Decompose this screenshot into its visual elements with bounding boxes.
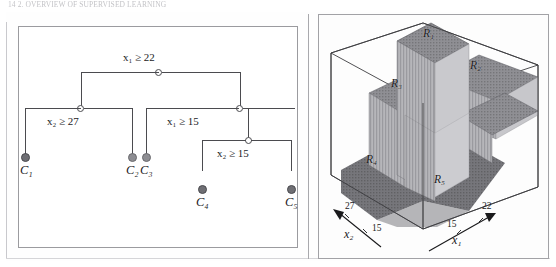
region-label-r4: R₄ (366, 153, 377, 165)
edge-left-to-c1 (25, 108, 81, 109)
axis-x1-arrowhead (485, 213, 496, 222)
axis-x1-ticks (457, 218, 483, 234)
edge-root-right-drop (240, 72, 241, 108)
tree-leaf-c1[interactable] (21, 153, 30, 162)
split-label-left: x₂ ≥ 27 (47, 115, 79, 127)
edge-root-left (81, 72, 159, 73)
edge-c5-drop (291, 140, 292, 171)
partition-plot-panel: R₁ R₂ R₃ R₄ R₅ x₂ x₁ 27 15 15 22 (318, 14, 549, 259)
tree-leaf-c5[interactable] (287, 185, 296, 194)
figure-container: x₁ ≥ 22 x₂ ≥ 27 x₁ ≥ 15 (6, 12, 550, 261)
decision-tree-panel: x₁ ≥ 22 x₂ ≥ 27 x₁ ≥ 15 (18, 26, 298, 248)
edge-sub-to-c5 (251, 140, 291, 141)
leaf-label-c3: C₃ (140, 163, 153, 178)
leaf-label-c2: C₂ (126, 163, 139, 178)
axis-x1-tick-22: 22 (482, 201, 492, 211)
edge-right-to-sub (243, 108, 295, 109)
leaf-label-c5: C₅ (285, 195, 298, 210)
split-label-right-right: x₂ ≥ 15 (217, 147, 249, 159)
left-rule (6, 22, 7, 258)
edge-left-to-c2 (84, 108, 132, 109)
edge-root-left-drop (81, 72, 82, 108)
region-label-r5: R₅ (434, 173, 445, 185)
tree-leaf-c4[interactable] (198, 185, 207, 194)
leaf-label-c1: C₁ (20, 163, 33, 178)
axis-x2-arrowhead (333, 209, 344, 220)
leaf-label-c4: C₄ (196, 195, 209, 210)
tree-leaf-c3[interactable] (142, 153, 151, 162)
edge-right-to-c3 (146, 108, 239, 109)
region-label-r2: R₂ (470, 59, 481, 71)
axis-x1-tick-15: 15 (447, 219, 457, 229)
split-label-right: x₁ ≥ 15 (167, 115, 199, 127)
edge-c4-drop (202, 140, 203, 171)
edge-c2-drop (132, 108, 133, 155)
region-label-r3: R₃ (391, 77, 402, 89)
region-label-r1: R₁ (423, 27, 434, 39)
edge-c3-drop (146, 108, 147, 155)
partition-plot-svg (319, 15, 550, 260)
axis-x2-tick-27: 27 (345, 201, 355, 211)
axis-x2-tick-15: 15 (372, 223, 382, 233)
running-header: 14 2. OVERVIEW OF SUPERVISED LEARNING (8, 0, 338, 9)
decision-tree: x₁ ≥ 22 x₂ ≥ 27 x₁ ≥ 15 (19, 27, 299, 249)
edge-c1-drop (25, 108, 26, 155)
partition-3d-plot: R₁ R₂ R₃ R₄ R₅ x₂ x₁ 27 15 15 22 (319, 15, 550, 260)
panel-divider (308, 14, 309, 259)
edge-root-right (162, 72, 240, 73)
axis-label-x1: x₁ (452, 233, 462, 248)
split-label-root: x₁ ≥ 22 (123, 51, 155, 63)
edge-sub-to-c4 (202, 140, 246, 141)
tree-leaf-c2[interactable] (128, 153, 137, 162)
axis-label-x2: x₂ (344, 227, 354, 242)
edge-right-to-sub-drop (248, 108, 249, 140)
